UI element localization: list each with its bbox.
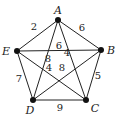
node-label-d: D xyxy=(25,104,35,117)
edge-weight-a-c: 4 xyxy=(64,47,70,58)
node-b xyxy=(98,47,104,53)
edge-weight-b-c: 5 xyxy=(95,70,101,81)
edge-weight-a-b: 6 xyxy=(79,22,85,33)
node-label-c: C xyxy=(91,102,100,115)
weighted-graph: 6257968448 ABCDE xyxy=(0,0,117,118)
node-label-e: E xyxy=(1,45,10,58)
node-label-a: A xyxy=(53,4,62,17)
node-e xyxy=(14,48,20,54)
edge-weight-e-c: 4 xyxy=(46,62,52,73)
edge-weight-e-b: 6 xyxy=(56,40,62,51)
node-a xyxy=(55,17,61,23)
edge-e-c xyxy=(17,51,86,100)
edge-weight-b-d: 8 xyxy=(59,62,65,73)
edge-weight-c-d: 9 xyxy=(57,102,63,113)
edge-weight-a-e: 2 xyxy=(31,21,37,32)
node-label-b: B xyxy=(106,44,115,57)
node-c xyxy=(83,97,89,103)
edge-a-e xyxy=(17,20,58,51)
node-d xyxy=(30,97,36,103)
edge-weight-d-e: 7 xyxy=(16,73,22,84)
